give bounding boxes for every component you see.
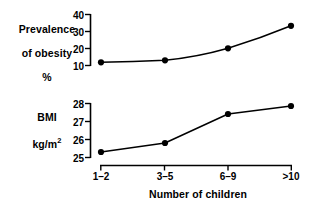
- data-point-bottom-1: [98, 149, 104, 155]
- data-point-bottom-2: [162, 140, 168, 146]
- data-point-bottom-3: [225, 111, 231, 117]
- data-point-bottom-4: [288, 103, 294, 109]
- bottom-panel-axis: [85, 103, 91, 158]
- data-point-top-4: [288, 23, 294, 29]
- top-panel-axis: [85, 14, 91, 66]
- figure-obesity-bmi-vs-children: Prevalence of obesity % BMI kg/m2 40 30 …: [0, 0, 315, 211]
- bottom-panel-series-bmi: [98, 103, 294, 155]
- top-panel-series-prevalence: [98, 23, 294, 66]
- data-point-top-2: [162, 57, 168, 63]
- data-point-top-3: [225, 45, 231, 51]
- chart-canvas: [0, 0, 315, 211]
- x-axis: [100, 166, 292, 171]
- data-point-top-1: [98, 59, 104, 65]
